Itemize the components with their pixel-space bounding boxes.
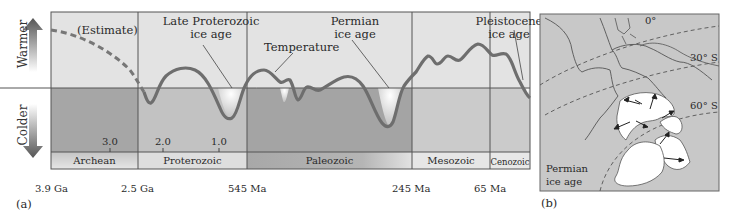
permian-ice-age-caption-line2: ice age bbox=[546, 176, 582, 188]
latitude-0: 0° bbox=[645, 15, 656, 27]
latitude-30s: 30° S bbox=[690, 52, 718, 64]
panel-b-label: (b) bbox=[541, 197, 557, 209]
permian-gondwana-map bbox=[0, 0, 732, 218]
latitude-60s: 60° S bbox=[690, 100, 718, 112]
permian-ice-age-caption-line1: Permian bbox=[546, 163, 588, 175]
